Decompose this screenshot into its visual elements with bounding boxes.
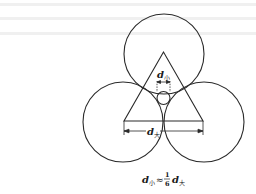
svg-text:6: 6: [165, 180, 170, 188]
d-small-label: d小: [157, 69, 170, 82]
svg-text:≈: ≈: [156, 175, 164, 185]
svg-text:d大: d大: [172, 174, 185, 187]
large-circle-left: [83, 82, 163, 162]
ratio-formula: d小 ≈ 1 6 d大: [142, 171, 185, 188]
svg-text:1: 1: [165, 171, 170, 179]
center-triangle: [124, 52, 203, 121]
large-circle-right: [164, 82, 244, 162]
svg-text:d小: d小: [142, 174, 155, 187]
d-small-dimension: [157, 81, 170, 93]
d-large-label: d大: [147, 126, 160, 139]
circle-packing-diagram: d小 d大 d小 ≈ 1 6 d大: [0, 0, 256, 194]
